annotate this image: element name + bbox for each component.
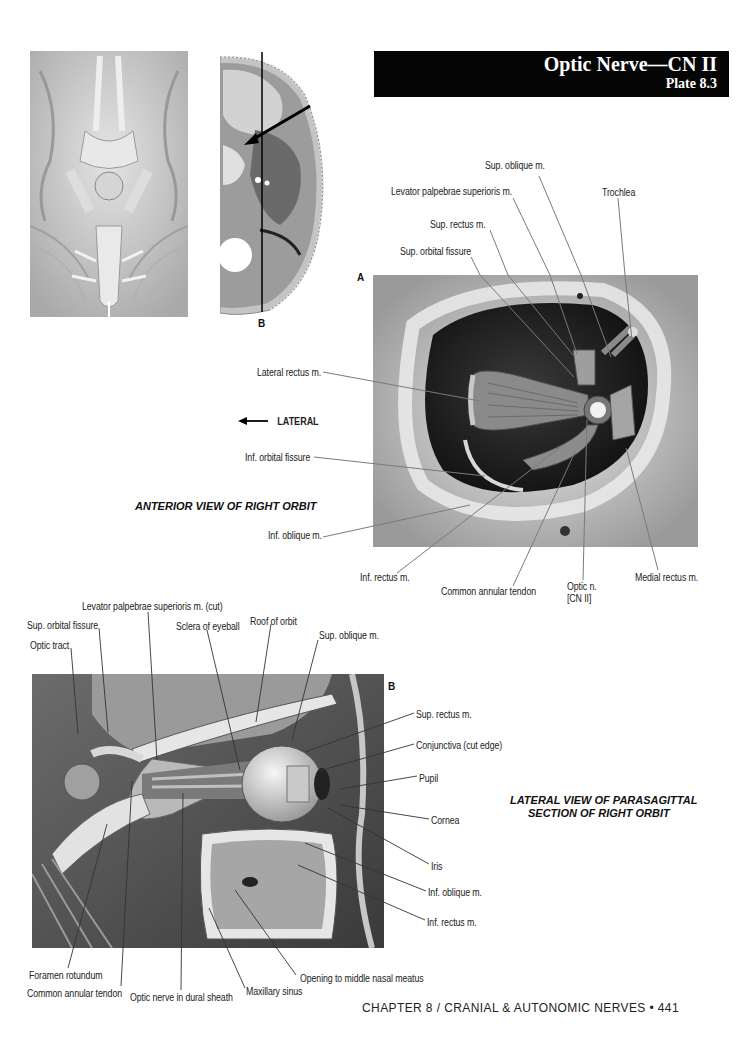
label-lateral-rectus: Lateral rectus m.	[257, 367, 321, 378]
orbit-anterior-illustration	[373, 275, 698, 547]
label-roof-of-orbit: Roof of orbit	[250, 616, 297, 627]
skull-base-illustration	[220, 55, 330, 315]
label-iris: Iris	[431, 861, 442, 872]
figure-b-letter: B	[388, 681, 395, 692]
figure-a-caption: ANTERIOR VIEW OF RIGHT ORBIT	[135, 500, 317, 513]
label-opening-nasal-meatus: Opening to middle nasal meatus	[300, 973, 424, 984]
left-arrow-icon	[238, 416, 268, 427]
label-sclera: Sclera of eyeball	[176, 621, 240, 632]
figure-b-caption-line1: LATERAL VIEW OF PARASAGITTAL	[510, 794, 697, 807]
brain-base-illustration	[30, 51, 188, 317]
orbit-anterior-drawing	[373, 275, 698, 547]
label-inf-oblique-a: Inf. oblique m.	[268, 530, 322, 541]
label-inf-oblique-b: Inf. oblique m.	[428, 887, 482, 898]
label-sup-orbital-fissure-a: Sup. orbital fissure	[400, 246, 471, 257]
label-common-annular-tendon-a: Common annular tendon	[441, 586, 536, 597]
label-pupil: Pupil	[419, 773, 438, 784]
lateral-label: LATERAL	[277, 416, 318, 427]
label-levator-a: Levator palpebrae superioris m.	[391, 186, 512, 197]
label-common-annular-tendon-b: Common annular tendon	[27, 988, 122, 999]
plate-header: Optic Nerve—CN II Plate 8.3	[374, 51, 729, 97]
label-trochlea: Trochlea	[602, 187, 635, 198]
label-optic-n-line1: Optic n.	[567, 581, 597, 592]
label-sup-rectus-a: Sup. rectus m.	[430, 219, 486, 230]
label-levator-cut: Levator palpebrae superioris m. (cut)	[82, 601, 223, 612]
label-cornea: Cornea	[431, 815, 459, 826]
figure-b-caption-line2: SECTION OF RIGHT ORBIT	[528, 807, 670, 820]
label-foramen-rotundum: Foramen rotundum	[29, 970, 102, 981]
label-optic-n-line2: [CN II]	[567, 593, 591, 604]
plate-number: Plate 8.3	[666, 76, 717, 92]
label-maxillary-sinus: Maxillary sinus	[246, 986, 302, 997]
label-sup-orbital-fissure-b: Sup. orbital fissure	[27, 620, 98, 631]
skull-base-drawing	[220, 55, 330, 315]
label-inf-rectus-a: Inf. rectus m.	[360, 572, 410, 583]
lateral-direction-indicator: LATERAL	[238, 415, 321, 427]
plate-title: Optic Nerve—CN II	[544, 53, 717, 76]
label-sup-oblique-b: Sup. oblique m.	[319, 630, 379, 641]
label-optic-nerve-dural: Optic nerve in dural sheath	[130, 992, 233, 1003]
label-conjunctiva: Conjunctiva (cut edge)	[416, 740, 502, 751]
label-inf-orbital-fissure: Inf. orbital fissure	[245, 452, 310, 463]
label-sup-rectus-b: Sup. rectus m.	[416, 709, 472, 720]
figure-a-letter: A	[357, 272, 364, 283]
orbit-lateral-section-illustration	[32, 674, 384, 948]
label-sup-oblique-a: Sup. oblique m.	[485, 160, 545, 171]
label-inf-rectus-b: Inf. rectus m.	[427, 917, 477, 928]
brain-base-drawing	[30, 51, 188, 317]
page-footer: CHAPTER 8 / CRANIAL & AUTONOMIC NERVES •…	[362, 1001, 679, 1015]
section-line-letter: B	[258, 318, 265, 329]
label-optic-tract: Optic tract	[30, 640, 69, 651]
label-medial-rectus: Medial rectus m.	[635, 572, 698, 583]
orbit-lateral-section-drawing	[32, 674, 384, 948]
